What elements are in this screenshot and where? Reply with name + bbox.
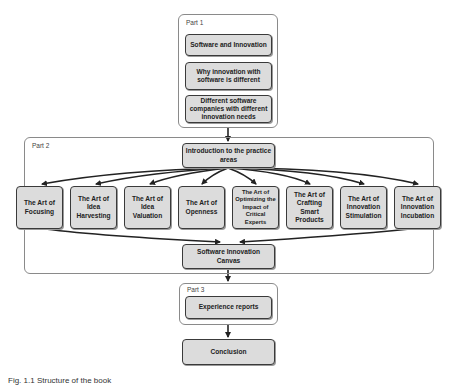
part-2-label: Part 2 [32,142,49,149]
node-art-of-innovation-stimulation: The Art of Innovation Stimulation [340,186,387,229]
node-art-of-openness: The Art of Openness [178,186,225,229]
node-software-innovation-canvas: Software Innovation Canvas [182,244,275,269]
node-conclusion: Conclusion [182,339,275,365]
figure-caption: Fig. 1.1 Structure of the book [8,376,111,385]
part-3-label: Part 3 [187,286,204,293]
node-art-of-focusing: The Art of Focusing [16,186,63,229]
node-art-of-idea-valuation: The Art of Idea Valuation [124,186,171,229]
part-1-label: Part 1 [186,19,203,26]
node-experience-reports: Experience reports [185,296,272,319]
node-art-of-crafting-smart-products: The Art of Crafting Smart Products [286,186,333,229]
node-different-companies: Different software companies with differ… [185,95,272,123]
node-why-innovation-different: Why innovation with software is differen… [185,62,272,90]
node-intro-practice-areas: Introduction to the practice areas [182,143,275,168]
node-software-and-innovation: Software and Innovation [185,34,272,56]
node-art-of-optimizing-critical-experts: The Art of Optimizing the Impact of Crit… [232,186,279,229]
node-art-of-innovation-incubation: The Art of Innovation Incubation [394,186,441,229]
node-art-of-idea-harvesting: The Art of Idea Harvesting [70,186,117,229]
